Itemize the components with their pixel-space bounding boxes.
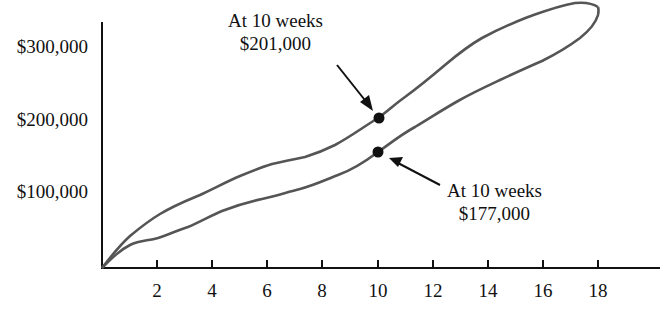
x-label-18: 18: [578, 281, 618, 301]
y-label-100000: $100,000: [17, 182, 88, 202]
x-label-6: 6: [247, 281, 287, 301]
annotation-lower-value: $177,000: [447, 202, 542, 225]
annotation-lower: At 10 weeks $177,000: [447, 179, 542, 225]
x-label-16: 16: [523, 281, 563, 301]
x-label-12: 12: [413, 281, 453, 301]
x-label-14: 14: [468, 281, 508, 301]
arrow-upper: [337, 65, 373, 111]
arrow-lower: [389, 157, 440, 185]
x-label-10: 10: [358, 281, 398, 301]
y-label-200000: $200,000: [17, 110, 88, 130]
annotation-lower-line1: At 10 weeks: [447, 179, 542, 202]
x-label-2: 2: [137, 281, 177, 301]
x-ticks: [157, 260, 598, 268]
chart-canvas: [0, 0, 666, 314]
upper-curve: [102, 3, 598, 268]
annotation-upper-value: $201,000: [228, 32, 323, 55]
point-lower-10-weeks: [373, 147, 384, 158]
y-label-300000: $300,000: [17, 37, 88, 57]
annotation-upper-line1: At 10 weeks: [228, 9, 323, 32]
x-label-4: 4: [192, 281, 232, 301]
x-label-8: 8: [302, 281, 342, 301]
annotation-upper: At 10 weeks $201,000: [228, 9, 323, 55]
point-upper-10-weeks: [374, 113, 385, 124]
